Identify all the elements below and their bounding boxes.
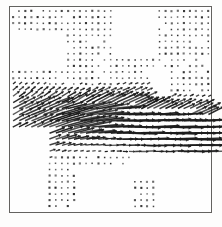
vector-field-figure <box>0 0 222 227</box>
quiver-vector-canvas <box>0 0 222 227</box>
